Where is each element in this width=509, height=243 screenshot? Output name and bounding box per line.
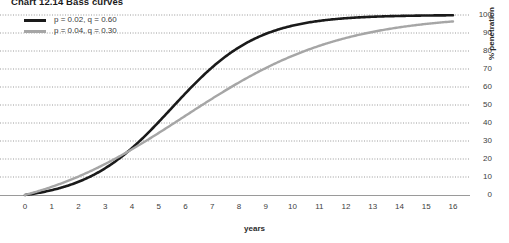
y-tick-label: 0 <box>466 191 492 199</box>
legend-label-0: p = 0.02, q = 0.60 <box>54 16 117 24</box>
x-axis-title: years <box>0 224 509 233</box>
x-tick-label: 8 <box>227 203 251 211</box>
legend-swatch-0 <box>24 19 46 22</box>
y-tick-label: 50 <box>466 101 492 109</box>
legend-swatch-1 <box>24 30 46 33</box>
gridlines <box>0 15 470 177</box>
x-tick-label: 5 <box>147 203 171 211</box>
x-tick-label: 13 <box>361 203 385 211</box>
y-tick-label: 70 <box>466 65 492 73</box>
x-tick-label: 10 <box>281 203 305 211</box>
x-tick-label: 6 <box>174 203 198 211</box>
y-tick-label: 30 <box>466 137 492 145</box>
x-tick-label: 7 <box>200 203 224 211</box>
x-tick-label: 12 <box>334 203 358 211</box>
chart-figure: Chart 12.14 Bass curves p = 0.02, q = 0.… <box>0 0 509 243</box>
legend-entry-1: p = 0.04, q = 0.30 <box>24 27 117 35</box>
x-tick-label: 16 <box>441 203 465 211</box>
y-tick-label: 40 <box>466 119 492 127</box>
x-tick-label: 15 <box>414 203 438 211</box>
x-tick-label: 11 <box>307 203 331 211</box>
x-tick-label: 1 <box>40 203 64 211</box>
y-tick-label: 60 <box>466 83 492 91</box>
y-tick-label: 10 <box>466 173 492 181</box>
y-tick-label: 20 <box>466 155 492 163</box>
x-tick-label: 9 <box>254 203 278 211</box>
legend-label-1: p = 0.04, q = 0.30 <box>54 27 117 35</box>
x-tick-label: 0 <box>13 203 37 211</box>
x-tick-label: 3 <box>93 203 117 211</box>
x-tick-label: 4 <box>120 203 144 211</box>
x-tick-label: 2 <box>67 203 91 211</box>
x-tick-label: 14 <box>388 203 412 211</box>
legend-entry-0: p = 0.02, q = 0.60 <box>24 16 117 24</box>
y-axis-title: % penetration <box>487 0 496 60</box>
